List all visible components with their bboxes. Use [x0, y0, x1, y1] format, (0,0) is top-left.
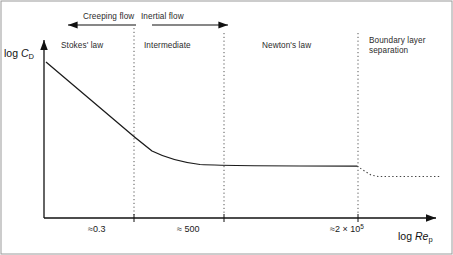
xtick-label-0p3: ≈0.3	[88, 224, 105, 234]
y-axis-label: log CD	[4, 47, 34, 61]
post-separation-drop	[357, 166, 440, 177]
inertial-flow-label: Inertial flow	[141, 12, 184, 22]
x-axis-label-log: log	[398, 230, 412, 242]
x-axis-label-sub: p	[428, 235, 432, 244]
region-label-newton: Newton's law	[262, 41, 311, 51]
xtick-label-2e5: ≈2 × 105	[330, 223, 364, 234]
y-axis-label-var: C	[21, 47, 29, 59]
xtick-label-500: ≈ 500	[177, 224, 199, 234]
xtick-label-2e5-exponent: 5	[360, 223, 364, 230]
creeping-flow-label: Creeping flow	[83, 12, 134, 22]
xtick-label-2e5-prefix: ≈2 × 10	[330, 224, 360, 234]
region-label-intermediate: Intermediate	[144, 41, 191, 51]
x-axis-label: log Rep	[398, 230, 433, 244]
y-axis-label-log: log	[4, 47, 18, 59]
region-label-boundary-layer-separation: Boundary layer separation	[369, 36, 439, 57]
region-label-stokes: Stokes' law	[61, 41, 103, 51]
drag-coefficient-curve	[46, 62, 357, 166]
chart-figure: log CD log Rep Creeping flow Inertial fl…	[0, 0, 453, 255]
x-axis-label-var: Re	[415, 230, 428, 242]
y-axis-label-sub: D	[29, 52, 34, 61]
